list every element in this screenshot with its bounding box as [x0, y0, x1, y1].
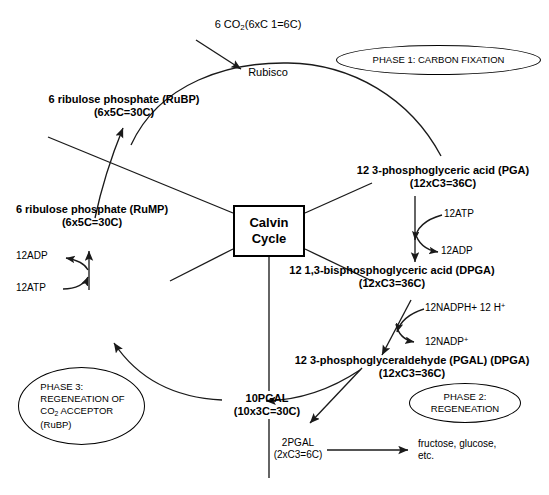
adp-out-rump-label: 12ADP — [16, 250, 48, 262]
nadp-superscript: + — [464, 335, 468, 344]
pga-line1: 12 3-phosphoglyceric acid (PGA) — [357, 164, 529, 177]
line-box-to-upper-left — [48, 137, 233, 213]
pgal-line2: (12xC3=36C) — [295, 367, 530, 380]
nadph-in-label: 12NADPH+ 12 H+ — [425, 302, 505, 314]
calvin-box-line2: Cycle — [252, 231, 287, 247]
phase-2-ellipse: PHASE 2: REGENEATION — [409, 383, 521, 423]
arrow-adp-out-rump — [66, 258, 88, 270]
atp-in-pga-label: 12ATP — [444, 208, 474, 220]
rubp-line2: (6x5C=30C) — [49, 106, 200, 119]
co2-entry-arrow — [196, 40, 241, 69]
arrow-atp-in-pga — [415, 215, 442, 240]
arrow-atp-in-rump — [63, 277, 88, 289]
pgal-10-line2: (10x3C=30C) — [234, 405, 300, 418]
pgal-10-line1: 10PGAL — [234, 392, 300, 405]
phase-2-line2: REGENEATION — [431, 403, 499, 415]
arrow-nadph-in — [397, 309, 424, 332]
pgal-10-label: 10PGAL (10x3C=30C) — [234, 392, 300, 418]
pgal-2-label: 2PGAL (2xC3=6C) — [274, 437, 323, 461]
phase-2-line1: PHASE 2: — [431, 391, 499, 403]
rubp-line1: 6 ribulose phosphate (RuBP) — [49, 93, 200, 106]
dpga-label: 12 1,3-bisphosphoglyceric acid (DPGA) (1… — [289, 264, 494, 290]
calvin-cycle-box: Calvin Cycle — [233, 205, 305, 257]
phase-3-line3: CO2 ACCEPTOR — [40, 405, 124, 419]
phase-3-line2: REGENEATION OF — [40, 393, 124, 405]
pgal-line1: 12 3-phosphoglyceraldehyde (PGAL) (DPGA) — [295, 354, 530, 367]
calvin-box-line1: Calvin — [249, 215, 288, 231]
pgal-2-line2: (2xC3=6C) — [274, 449, 323, 461]
arrow-adp-out-pga — [415, 232, 438, 252]
phase-3-line1: PHASE 3: — [40, 381, 124, 393]
dpga-line2: (12xC3=36C) — [289, 277, 494, 290]
dpga-line1: 12 1,3-bisphosphoglyceric acid (DPGA) — [289, 264, 494, 277]
pga-line2: (12xC3=36C) — [357, 177, 529, 190]
calvin-cycle-diagram: 6 CO2(6xC 1=6C) Rubisco PHASE 1: CARBON … — [0, 0, 549, 495]
products-line1: fructose, glucose, — [418, 438, 496, 450]
rump-line2: (6x5C=30C) — [16, 216, 168, 229]
co2-input-label: 6 CO2(6xC 1=6C) — [215, 18, 302, 33]
rubp-label: 6 ribulose phosphate (RuBP) (6x5C=30C) — [49, 93, 200, 119]
rump-label: 6 ribulose phosphate (RuMP) (6x5C=30C) — [16, 203, 168, 229]
phase-2-label: PHASE 2: REGENEATION — [431, 391, 499, 416]
pgal-2-line1: 2PGAL — [274, 437, 323, 449]
products-label: fructose, glucose, etc. — [418, 438, 496, 462]
nadp-out-label: 12NADP+ — [425, 336, 468, 348]
phase-3-label: PHASE 3: REGENEATION OF CO2 ACCEPTOR (Ru… — [38, 381, 124, 432]
phase-3-line4: (RuBP) — [40, 419, 124, 431]
rubisco-enzyme-label: Rubisco — [248, 66, 288, 79]
line-box-to-rump — [170, 249, 233, 281]
nadph-superscript: + — [501, 301, 505, 310]
rump-line1: 6 ribulose phosphate (RuMP) — [16, 203, 168, 216]
pgal-label: 12 3-phosphoglyceraldehyde (PGAL) (DPGA)… — [295, 354, 530, 380]
products-line2: etc. — [418, 450, 496, 462]
pga-label: 12 3-phosphoglyceric acid (PGA) (12xC3=3… — [357, 164, 529, 190]
phase-3-ellipse: PHASE 3: REGENEATION OF CO2 ACCEPTOR (Ru… — [18, 367, 145, 445]
atp-in-rump-label: 12ATP — [16, 282, 46, 294]
phase-1-ellipse: PHASE 1: CARBON FIXATION — [336, 45, 541, 75]
phase-1-label: PHASE 1: CARBON FIXATION — [373, 54, 505, 66]
adp-out-pga-label: 12ADP — [441, 245, 473, 257]
